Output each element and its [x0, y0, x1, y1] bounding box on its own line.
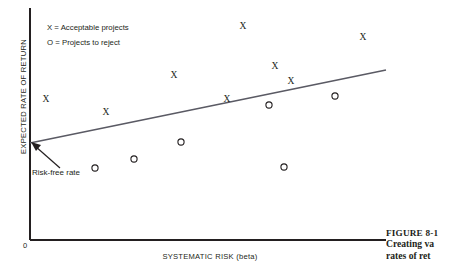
caption-line-1: Creating va [386, 238, 459, 250]
marker-x: X [272, 61, 279, 71]
y-axis-label: EXPECTED RATE OF RETURN [19, 22, 28, 172]
marker-o [281, 164, 287, 170]
origin-label: 0 [23, 241, 27, 250]
caption-figure-number: FIGURE 8-1 [386, 228, 459, 238]
figure-container: XXXXXXXX EXPECTED RATE OF RETURN SYSTEMA… [0, 0, 459, 267]
x-axis-label: SYSTEMATIC RISK (beta) [110, 252, 310, 261]
marker-x: X [43, 94, 50, 104]
security-market-line [30, 70, 386, 143]
legend: X = Acceptable projects O = Projects to … [47, 20, 129, 50]
marker-x: X [171, 70, 178, 80]
legend-item-reject: O = Projects to reject [47, 35, 129, 50]
risk-free-rate-label: Risk-free rate [32, 168, 80, 177]
marker-o [131, 156, 137, 162]
marker-x: X [103, 107, 110, 117]
marker-o [332, 93, 338, 99]
marker-o [178, 139, 184, 145]
figure-caption: FIGURE 8-1 Creating va rates of ret [386, 228, 459, 261]
risk-free-rate-arrow [31, 142, 60, 168]
marker-o [92, 165, 98, 171]
marker-x: X [360, 32, 367, 42]
marker-x: X [288, 76, 295, 86]
marker-x: X [224, 94, 231, 104]
legend-item-acceptable: X = Acceptable projects [47, 20, 129, 35]
marker-o [266, 102, 272, 108]
marker-x: X [240, 21, 247, 31]
caption-line-2: rates of ret [386, 250, 459, 262]
